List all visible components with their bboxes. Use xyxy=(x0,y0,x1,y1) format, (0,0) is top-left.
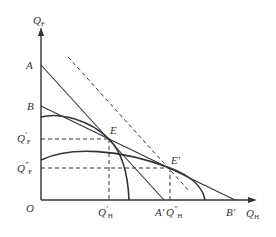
y-axis-label: QF xyxy=(33,14,45,28)
origin-label: O xyxy=(26,202,34,214)
y-axis-arrow-icon xyxy=(38,27,44,36)
qf-dprime-label: Q″F xyxy=(17,161,32,176)
ppf-curves xyxy=(41,116,205,200)
x-axis-arrow-icon xyxy=(248,197,257,203)
shifted-price-line xyxy=(68,57,190,192)
point-B-label: B xyxy=(27,100,34,112)
point-A-label: A xyxy=(25,59,33,71)
ppf-diagram: QF QH O A B E E′ A′ B′ Q′F Q″F Q′H Q″H xyxy=(0,0,276,237)
point-E-label: E xyxy=(109,124,117,136)
qh-prime-label: Q′H xyxy=(98,205,113,220)
qh-dprime-label: Q″H xyxy=(166,205,182,220)
ppf-expanded xyxy=(41,151,205,200)
point-E-prime-label: E′ xyxy=(170,154,181,166)
price-lines xyxy=(41,65,235,200)
qf-prime-label: Q′F xyxy=(17,131,31,146)
price-line-BB xyxy=(41,106,235,200)
point-A-prime-label: A′ xyxy=(154,206,165,218)
x-axis-label: QH xyxy=(246,207,259,221)
axes xyxy=(41,33,252,200)
point-B-prime-label: B′ xyxy=(226,206,236,218)
